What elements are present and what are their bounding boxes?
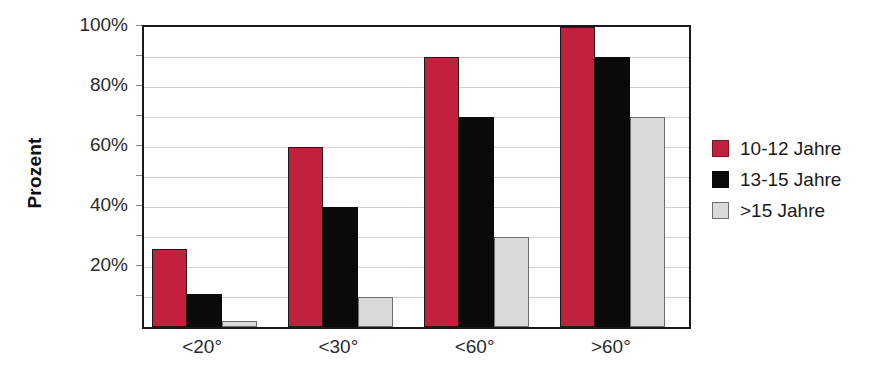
- x-axis-tick-label: <60°: [455, 336, 495, 358]
- bar: [152, 249, 187, 327]
- bar: [630, 117, 665, 327]
- y-axis-tick-label: 60%: [90, 134, 128, 156]
- y-axis-tick-label: 80%: [90, 74, 128, 96]
- legend-swatch: [712, 140, 729, 157]
- bar: [459, 117, 494, 327]
- x-axis-tick-label: <30°: [318, 336, 358, 358]
- bar: [222, 321, 257, 327]
- chart-legend: 10-12 Jahre13-15 Jahre>15 Jahre: [712, 133, 841, 226]
- bar-group: [144, 27, 280, 327]
- bar-group: [553, 27, 689, 327]
- y-axis-tick-label: 40%: [90, 194, 128, 216]
- bar-chart: Prozent 100%80%60%40%20% <20°<30°<60°>60…: [0, 0, 886, 373]
- bar: [595, 57, 630, 327]
- legend-swatch: [712, 171, 729, 188]
- legend-item[interactable]: 10-12 Jahre: [712, 133, 841, 164]
- legend-label: >15 Jahre: [740, 200, 825, 222]
- y-axis-title-label: Prozent: [24, 137, 46, 208]
- legend-item[interactable]: >15 Jahre: [712, 195, 841, 226]
- bar: [358, 297, 393, 327]
- x-axis-tick-label: <20°: [182, 336, 222, 358]
- legend-label: 10-12 Jahre: [740, 138, 841, 160]
- x-axis-tick-label: >60°: [591, 336, 631, 358]
- legend-item[interactable]: 13-15 Jahre: [712, 164, 841, 195]
- bar-group: [280, 27, 416, 327]
- bar-group: [417, 27, 553, 327]
- y-axis-title: Prozent: [18, 0, 52, 345]
- bar: [187, 294, 222, 327]
- legend-label: 13-15 Jahre: [740, 169, 841, 191]
- bar: [288, 147, 323, 327]
- bar-groups: [144, 27, 689, 327]
- bar: [560, 27, 595, 327]
- bar: [424, 57, 459, 327]
- bar: [494, 237, 529, 327]
- plot-area: [142, 25, 691, 329]
- y-axis-tick-label: 100%: [79, 14, 128, 36]
- y-axis-tick-label: 20%: [90, 254, 128, 276]
- y-axis-tick-labels: 100%80%60%40%20%: [52, 0, 136, 373]
- bar: [323, 207, 358, 327]
- x-axis-tick-labels: <20°<30°<60°>60°: [142, 336, 687, 366]
- legend-swatch: [712, 202, 729, 219]
